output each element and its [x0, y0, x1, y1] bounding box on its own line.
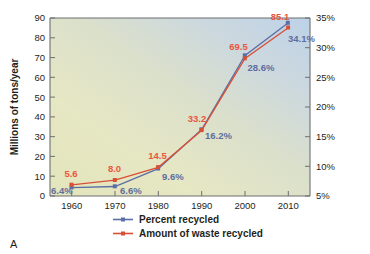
figure-panel: 0 10 20 30 40 50 60 70 80 90 5% 10% 15% …	[0, 0, 370, 254]
x-ticklabel: 2010	[278, 200, 299, 211]
chart-svg: 0 10 20 30 40 50 60 70 80 90 5% 10% 15% …	[0, 0, 370, 254]
y2-ticklabel: 5%	[316, 190, 330, 201]
x-ticklabel: 1970	[104, 200, 125, 211]
point-label: 28.6%	[248, 62, 275, 73]
y-axis-title: Millions of tons/year	[9, 59, 20, 156]
legend-label: Percent recycled	[139, 214, 219, 225]
y-ticklabel: 20	[34, 151, 45, 162]
y2-ticklabel: 15%	[316, 131, 336, 142]
point-label: 6.4%	[51, 185, 73, 196]
y2-ticklabel: 20%	[316, 101, 336, 112]
point-label: 34.1%	[288, 33, 315, 44]
data-point	[113, 178, 117, 182]
y-ticklabel: 10	[34, 171, 45, 182]
x-axis-ticklabels: 1960 1970 1980 1990 2000 2010	[61, 200, 299, 211]
y-ticklabel: 50	[34, 92, 45, 103]
y-ticklabel: 70	[34, 52, 45, 63]
point-label: 33.2	[188, 113, 207, 124]
panel-label: A	[10, 238, 18, 250]
point-label: 8.0	[108, 163, 121, 174]
legend-item-percent-recycled[interactable]: Percent recycled	[113, 214, 219, 225]
point-label: 14.5	[148, 150, 167, 161]
data-point	[286, 26, 290, 30]
y-ticklabel: 80	[34, 32, 45, 43]
point-label: 5.6	[64, 168, 77, 179]
x-ticklabel: 1960	[61, 200, 82, 211]
plot-background	[50, 18, 310, 196]
point-label: 16.2%	[205, 130, 232, 141]
data-point	[243, 56, 247, 60]
point-label: 9.6%	[162, 171, 184, 182]
legend-label: Amount of waste recycled	[139, 228, 263, 239]
y-ticklabel: 30	[34, 131, 45, 142]
y2-ticklabel: 35%	[316, 12, 336, 23]
data-point	[200, 128, 204, 132]
x-ticklabel: 1990	[191, 200, 212, 211]
y-ticklabel: 0	[40, 190, 45, 201]
chart-legend: Percent recycled Amount of waste recycle…	[113, 214, 263, 239]
data-point	[113, 184, 117, 188]
x-ticklabel: 1980	[148, 200, 169, 211]
y-ticklabel: 90	[34, 12, 45, 23]
y2-ticklabel: 30%	[316, 42, 336, 53]
legend-swatch-marker	[121, 218, 125, 222]
point-label: 6.6%	[120, 185, 142, 196]
y-ticklabel: 60	[34, 72, 45, 83]
x-ticklabel: 2000	[234, 200, 255, 211]
legend-swatch-marker	[121, 232, 125, 236]
point-label: 69.5	[229, 41, 248, 52]
y-axis-right-ticklabels: 5% 10% 15% 20% 25% 30% 35%	[316, 12, 336, 201]
y2-ticklabel: 25%	[316, 72, 336, 83]
y-axis-left-ticklabels: 0 10 20 30 40 50 60 70 80 90	[34, 12, 45, 201]
y-ticklabel: 40	[34, 111, 45, 122]
legend-item-amount-of-waste-recycled[interactable]: Amount of waste recycled	[113, 228, 263, 239]
data-point	[156, 165, 160, 169]
point-label: 85.1	[271, 11, 290, 22]
y2-ticklabel: 10%	[316, 161, 336, 172]
